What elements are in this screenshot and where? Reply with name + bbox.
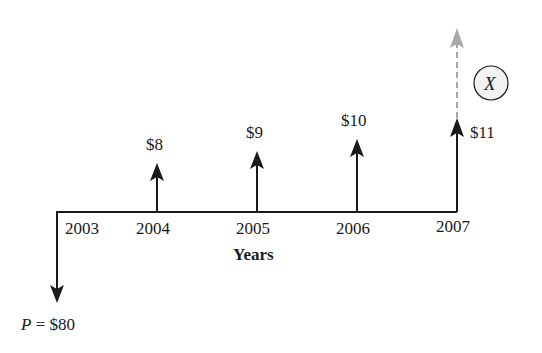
- year-label-2005: 2005: [236, 220, 270, 237]
- axis-label: Years: [233, 246, 274, 263]
- year-label-2007: 2007: [436, 218, 470, 235]
- cash-flow-label-2004: $8: [146, 136, 163, 153]
- unknown-x-label: X: [484, 74, 496, 93]
- year-label-2003: 2003: [65, 220, 99, 237]
- present-value-symbol: P: [21, 315, 31, 334]
- cash-flow-label-2006: $10: [341, 112, 367, 129]
- present-value-equals: =: [36, 315, 46, 334]
- present-value-amount: $80: [49, 315, 75, 334]
- year-label-2004: 2004: [136, 220, 170, 237]
- year-label-2006: 2006: [336, 220, 370, 237]
- cash-flow-label-2005: $9: [246, 124, 263, 141]
- cash-flow-label-2007: $11: [470, 124, 495, 141]
- cash-flow-diagram: [0, 0, 542, 353]
- present-value-label: P = $80: [21, 316, 75, 333]
